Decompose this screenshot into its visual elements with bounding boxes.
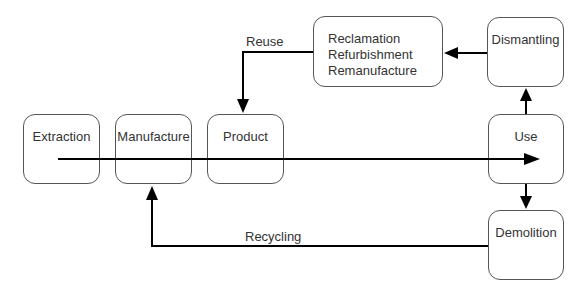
edge-use-to-demolition (520, 184, 532, 209)
edge-main-flow (58, 153, 540, 165)
arrowhead-icon (524, 153, 540, 165)
edge-label-recycling: Recycling (245, 229, 301, 244)
arrowhead-icon (146, 186, 158, 200)
edge-use-to-dismantling (520, 88, 532, 114)
edge-dismantling-to-reclamation (444, 47, 487, 59)
arrowhead-icon (444, 47, 458, 59)
diagram-canvas: Extraction Manufacture Product Use Disma… (0, 0, 586, 292)
arrowhead-icon (237, 99, 249, 113)
arrowhead-icon (520, 88, 532, 101)
arrowhead-icon (520, 196, 532, 209)
edges-layer (0, 0, 586, 292)
edge-label-reuse: Reuse (246, 34, 284, 49)
edge-recycling (146, 186, 488, 246)
edge-reuse (237, 52, 313, 113)
